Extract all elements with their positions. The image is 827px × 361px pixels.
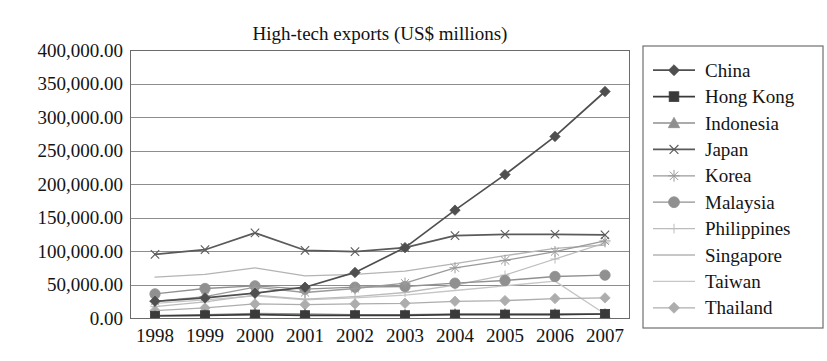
x-axis-tick-label: 2002 [336,325,374,346]
x-axis-tick-label: 2005 [486,325,524,346]
x-axis-tick-label: 2000 [236,325,274,346]
marker-square [600,309,609,318]
marker-asterisk [499,255,510,266]
legend-label: China [705,60,751,81]
legend-label: Korea [705,165,752,186]
marker-asterisk [349,283,360,294]
legend-label: Indonesia [705,113,779,134]
marker-asterisk [668,170,680,182]
y-axis-tick-label: 350,000.00 [38,73,124,94]
y-axis-tick-label: 50,000.00 [47,274,123,295]
legend-label: Malaysia [705,192,775,213]
x-axis-tick-label: 2004 [436,325,475,346]
x-axis-tick-label: 2001 [286,325,324,346]
marker-square [150,311,159,320]
legend-label: Japan [705,139,749,160]
y-axis-tick-label: 300,000.00 [38,107,124,128]
legend-label: Taiwan [705,271,761,292]
chart-svg: 400,000.00350,000.00300,000.00250,000.00… [0,0,827,361]
y-axis-labels: 400,000.00350,000.00300,000.00250,000.00… [38,40,124,329]
legend-label: Hong Kong [705,86,795,107]
x-axis-tick-label: 2003 [386,325,424,346]
marker-square [250,310,259,319]
legend-label: Philippines [705,218,791,239]
x-axis-tick-label: 1999 [186,325,224,346]
marker-circle [450,278,460,288]
y-axis-tick-label: 400,000.00 [38,40,124,61]
marker-circle [600,270,610,280]
y-axis-tick-label: 250,000.00 [38,140,124,161]
marker-asterisk [599,235,610,246]
marker-asterisk [449,262,460,273]
y-axis-tick-label: 0.00 [90,308,123,329]
legend-label: Thailand [705,297,773,318]
x-axis-tick-label: 1998 [136,325,174,346]
marker-circle [500,275,510,285]
legend-label: Singapore [705,245,782,266]
marker-square [550,310,559,319]
marker-square [500,310,509,319]
marker-asterisk [399,278,410,289]
marker-circle [550,271,560,281]
marker-asterisk [549,246,560,257]
x-axis-labels: 1998199920002001200220032004200520062007 [136,325,624,346]
x-axis-tick-label: 2007 [586,325,624,346]
chart-legend: ChinaHong KongIndonesiaJapanKoreaMalaysi… [643,46,823,328]
marker-square [450,310,459,319]
chart-title: High-tech exports (US$ millions) [253,23,508,45]
y-axis-tick-label: 100,000.00 [38,241,124,262]
marker-square [669,92,679,102]
y-axis-tick-label: 150,000.00 [38,207,124,228]
marker-circle [669,197,680,208]
y-axis-tick-label: 200,000.00 [38,174,124,195]
chart-container: 400,000.00350,000.00300,000.00250,000.00… [0,0,827,361]
x-axis-tick-label: 2006 [536,325,574,346]
